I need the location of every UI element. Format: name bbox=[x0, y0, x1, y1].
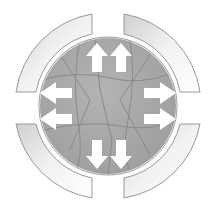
globe bbox=[39, 37, 177, 176]
diagram bbox=[0, 0, 215, 212]
globe-arrows-diagram bbox=[0, 0, 215, 212]
